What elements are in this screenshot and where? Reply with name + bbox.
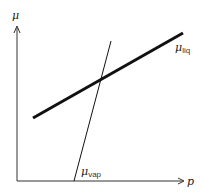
y-axis bbox=[14, 26, 20, 181]
mu-vap-line bbox=[74, 41, 111, 181]
y-axis-label: μ bbox=[12, 9, 19, 22]
x-axis-label: p bbox=[187, 175, 194, 188]
mu-vs-p-diagram: μ p μliq μvap bbox=[0, 0, 203, 192]
mu-liq-line bbox=[33, 33, 183, 118]
mu-vap-label: μvap bbox=[81, 165, 102, 179]
mu-liq-label: μliq bbox=[175, 41, 190, 55]
